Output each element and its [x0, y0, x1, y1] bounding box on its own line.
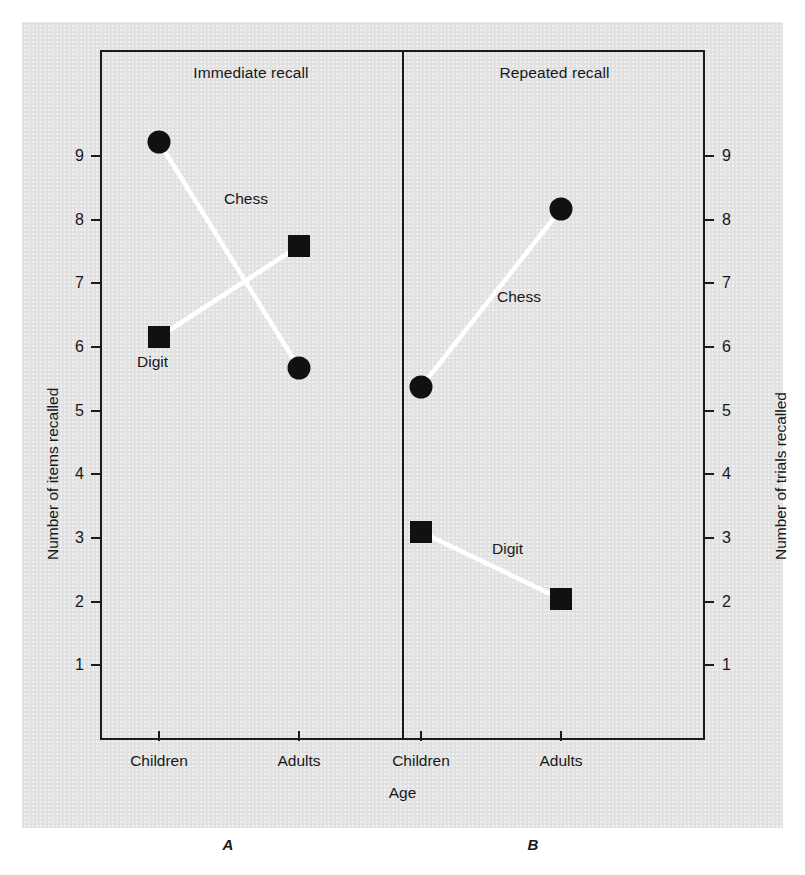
xlabel-b-adults: Adults [501, 752, 621, 770]
ylabel-left-8: 8 [58, 212, 84, 228]
ylabel-right-8: 8 [722, 212, 748, 228]
ytick-left-4 [91, 473, 100, 475]
ytick-right-2 [705, 601, 714, 603]
y-axis-title-right: Number of trials recalled [772, 392, 790, 560]
ytick-right-4 [705, 473, 714, 475]
series-label-b-chess: Chess [497, 288, 541, 306]
series-label-a-chess: Chess [224, 190, 268, 208]
ylabel-right-5: 5 [722, 403, 748, 419]
xtick-b-adults [560, 731, 562, 741]
xtick-a-children [158, 731, 160, 741]
xtick-b-children [420, 731, 422, 741]
series-label-b-digit: Digit [492, 540, 523, 558]
ytick-left-6 [91, 346, 100, 348]
ytick-left-1 [91, 664, 100, 666]
ylabel-right-3: 3 [722, 530, 748, 546]
ylabel-left-2: 2 [58, 594, 84, 610]
xlabel-b-children: Children [361, 752, 481, 770]
ylabel-right-4: 4 [722, 466, 748, 482]
xlabel-a-children: Children [99, 752, 219, 770]
ylabel-right-6: 6 [722, 339, 748, 355]
panel-title-a: Immediate recall [100, 64, 402, 82]
ytick-left-8 [91, 219, 100, 221]
x-axis-title: Age [0, 784, 805, 802]
panel-letter-a: A [168, 836, 288, 853]
ylabel-left-9: 9 [58, 148, 84, 164]
ylabel-right-2: 2 [722, 594, 748, 610]
panel-divider [402, 50, 404, 740]
ytick-right-7 [705, 282, 714, 284]
panel-title-b: Repeated recall [404, 64, 705, 82]
ytick-left-2 [91, 601, 100, 603]
ytick-left-9 [91, 155, 100, 157]
ytick-right-9 [705, 155, 714, 157]
ylabel-left-1: 1 [58, 657, 84, 673]
ylabel-left-6: 6 [58, 339, 84, 355]
figure-root: Immediate recall Repeated recall 1 2 3 4… [0, 0, 805, 875]
ylabel-right-7: 7 [722, 275, 748, 291]
ytick-right-3 [705, 537, 714, 539]
ytick-left-7 [91, 282, 100, 284]
panel-letter-b: B [473, 836, 593, 853]
series-label-a-digit: Digit [137, 353, 168, 371]
ylabel-left-7: 7 [58, 275, 84, 291]
xtick-a-adults [298, 731, 300, 741]
xlabel-a-adults: Adults [239, 752, 359, 770]
ytick-right-1 [705, 664, 714, 666]
y-axis-title-left: Number of items recalled [44, 388, 62, 560]
ylabel-right-1: 1 [722, 657, 748, 673]
ytick-left-5 [91, 410, 100, 412]
ytick-left-3 [91, 537, 100, 539]
ytick-right-8 [705, 219, 714, 221]
ylabel-right-9: 9 [722, 148, 748, 164]
ytick-right-5 [705, 410, 714, 412]
ytick-right-6 [705, 346, 714, 348]
